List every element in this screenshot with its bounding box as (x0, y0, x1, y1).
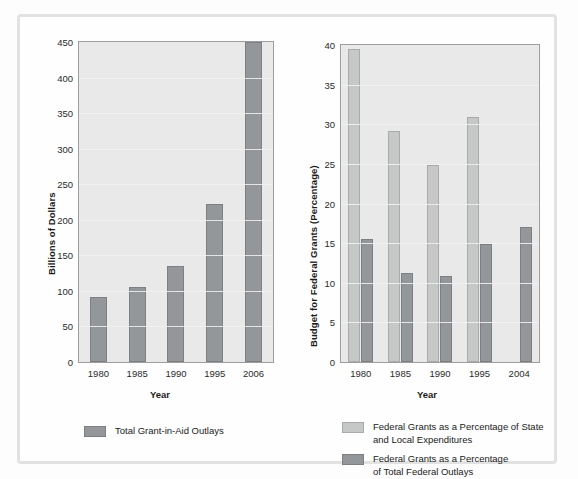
legend-swatch (84, 426, 106, 437)
left-chart-bars (79, 42, 273, 362)
bar (245, 42, 262, 362)
bar (129, 287, 146, 362)
bar-group (195, 42, 234, 362)
legend-item: Federal Grants as a Percentage of State … (342, 421, 544, 446)
gridline (79, 255, 273, 256)
gridline (79, 220, 273, 221)
gridline (341, 85, 539, 86)
y-tick-label: 200 (43, 214, 73, 225)
bar (388, 131, 400, 362)
bar-group (157, 42, 196, 362)
y-tick-label: 400 (43, 72, 73, 83)
x-tick-label: 1990 (165, 368, 186, 379)
legend-label: Federal Grants as a Percentage of Total … (373, 453, 508, 478)
y-tick-label: 15 (309, 238, 335, 249)
y-tick-label: 0 (309, 357, 335, 368)
bar (167, 266, 184, 362)
bar (520, 227, 532, 362)
y-tick-label: 450 (43, 37, 73, 48)
y-tick-label: 100 (43, 285, 73, 296)
x-tick-label: 1995 (204, 368, 225, 379)
y-tick-label: 0 (43, 357, 73, 368)
y-tick-label: 150 (43, 250, 73, 261)
gridline (79, 291, 273, 292)
y-tick-label: 20 (309, 198, 335, 209)
bar (361, 239, 373, 362)
bar (206, 204, 223, 362)
gridline (341, 283, 539, 284)
legend-swatch (342, 454, 364, 465)
gridline (79, 326, 273, 327)
y-tick-label: 50 (43, 321, 73, 332)
bar (480, 244, 492, 362)
gridline (341, 322, 539, 323)
legend-label: Federal Grants as a Percentage of State … (373, 421, 544, 446)
x-tick-label: 1980 (88, 368, 109, 379)
chart-total-grant-in-aid-outlays: Billions of Dollars 05010015020025030035… (26, 17, 294, 467)
left-chart-plot-area (78, 41, 274, 363)
y-tick-label: 250 (43, 179, 73, 190)
x-tick-label: 2006 (243, 368, 264, 379)
x-tick-label: 1985 (390, 368, 411, 379)
y-tick-label: 10 (309, 277, 335, 288)
x-tick-label: 2004 (509, 368, 530, 379)
y-tick-label: 35 (309, 79, 335, 90)
right-chart-legend: Federal Grants as a Percentage of State … (342, 421, 544, 479)
x-tick-label: 1995 (469, 368, 490, 379)
bar (427, 165, 439, 362)
bar-group (234, 42, 273, 362)
figure-frame: Billions of Dollars 05010015020025030035… (17, 14, 557, 464)
right-chart-x-axis-title: Year (296, 389, 558, 400)
bar (90, 297, 107, 362)
bar-group (118, 42, 157, 362)
gridline (341, 243, 539, 244)
gridline (341, 124, 539, 125)
gridline (79, 184, 273, 185)
chart-federal-grants-percentages: Budget for Federal Grants (Percentage) 0… (296, 17, 558, 467)
legend-label: Total Grant-in-Aid Outlays (115, 425, 224, 438)
bar (348, 49, 360, 362)
bar-group (79, 42, 118, 362)
bar (440, 276, 452, 362)
left-chart-legend: Total Grant-in-Aid Outlays (84, 425, 224, 445)
left-chart-x-axis-title: Year (26, 389, 294, 400)
gridline (341, 164, 539, 165)
y-tick-label: 40 (309, 40, 335, 51)
y-tick-label: 30 (309, 119, 335, 130)
gridline (79, 78, 273, 79)
y-tick-label: 5 (309, 317, 335, 328)
figure-page: Billions of Dollars 05010015020025030035… (0, 0, 578, 479)
y-tick-label: 300 (43, 143, 73, 154)
x-tick-label: 1980 (350, 368, 371, 379)
x-tick-label: 1990 (429, 368, 450, 379)
gridline (79, 113, 273, 114)
legend-item: Federal Grants as a Percentage of Total … (342, 453, 544, 478)
x-tick-label: 1985 (127, 368, 148, 379)
gridline (79, 149, 273, 150)
bar (401, 273, 413, 362)
left-chart-y-axis-title: Billions of Dollars (46, 192, 57, 275)
bar (467, 117, 479, 362)
y-tick-label: 350 (43, 108, 73, 119)
legend-swatch (342, 422, 364, 433)
gridline (341, 204, 539, 205)
legend-item: Total Grant-in-Aid Outlays (84, 425, 224, 438)
right-chart-plot-area (340, 44, 540, 363)
y-tick-label: 25 (309, 158, 335, 169)
